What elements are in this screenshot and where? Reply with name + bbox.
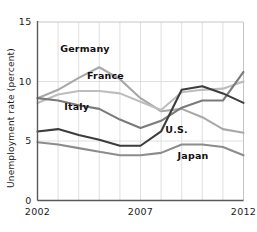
y-axis-tick-labels: 051015 xyxy=(19,16,32,206)
unemployment-rate-line-chart: 051015 200220072012 GermanyFranceItalyU.… xyxy=(0,0,257,232)
series-label-germany: Germany xyxy=(60,43,110,54)
series-label-italy: Italy xyxy=(64,101,90,112)
y-tick-label-5: 5 xyxy=(25,135,31,146)
x-tick-label-2002: 2002 xyxy=(25,206,50,217)
x-axis-tick-labels: 200220072012 xyxy=(25,206,256,217)
x-tick-label-2012: 2012 xyxy=(231,206,256,217)
y-tick-label-10: 10 xyxy=(19,76,32,87)
y-tick-label-0: 0 xyxy=(25,195,31,206)
x-tick-label-2007: 2007 xyxy=(128,206,153,217)
y-tick-label-15: 15 xyxy=(19,16,32,27)
series-label-us: U.S. xyxy=(165,124,188,135)
chart-canvas: 051015 200220072012 GermanyFranceItalyU.… xyxy=(0,0,257,232)
y-axis-title: Unemployment rate (percent) xyxy=(6,48,16,188)
series-label-japan: Japan xyxy=(177,150,209,161)
series-label-france: France xyxy=(87,70,124,81)
